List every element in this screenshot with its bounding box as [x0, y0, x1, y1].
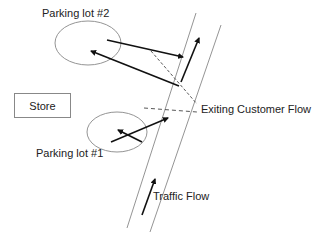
- entry-arrow-lot2: [107, 40, 183, 57]
- store-box: Store: [14, 93, 71, 118]
- parking-lot-2-label: Parking lot #2: [42, 8, 109, 19]
- traffic-flow-label: Traffic Flow: [153, 191, 209, 202]
- road-flow-arrow-upper: [181, 38, 199, 82]
- store-label: Store: [29, 100, 55, 112]
- parking-lot-1-label: Parking lot #1: [36, 148, 103, 159]
- entry-arrow-lot1: [118, 130, 142, 142]
- exiting-customer-flow-label: Exiting Customer Flow: [201, 104, 311, 115]
- parking-lot-1-area: [87, 112, 147, 152]
- callout-line-lower: [144, 108, 197, 112]
